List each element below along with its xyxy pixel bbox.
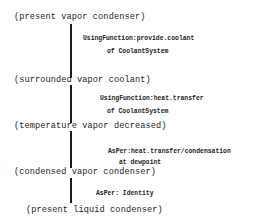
transition-label: UsingFunction:heat.transfer xyxy=(100,95,204,103)
connector-line xyxy=(70,131,72,168)
connector-line xyxy=(70,85,72,123)
transition-label: UsingFunction:provide.coolant xyxy=(83,35,194,43)
state-present-liquid-condenser: (present liquid condenser) xyxy=(26,205,163,215)
state-present-vapor-condenser: (present vapor condenser) xyxy=(14,12,145,22)
transition-label: AsPer: Identity xyxy=(96,190,154,198)
connector-line xyxy=(70,24,72,78)
transition-label-continued: of CoolantSystem xyxy=(107,108,168,116)
state-temperature-vapor-decreased: (temperature vapor decreased) xyxy=(14,121,166,131)
transition-label-continued: of CoolantSystem xyxy=(107,48,168,56)
state-condensed-vapor-condenser: (condensed vapor condenser) xyxy=(14,167,156,177)
connector-line xyxy=(70,178,72,203)
transition-label-continued: at dewpoint xyxy=(119,159,161,167)
transition-label: AsPer:heat.transfer/condensation xyxy=(108,148,231,156)
state-surrounded-vapor-coolant: (surrounded vapor coolant) xyxy=(14,75,151,85)
